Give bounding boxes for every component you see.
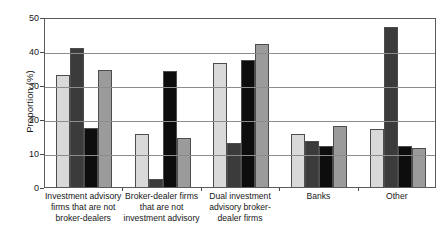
y-tick-mark bbox=[40, 188, 44, 189]
bar bbox=[213, 63, 227, 187]
bar-group bbox=[280, 19, 358, 187]
bar bbox=[227, 143, 241, 187]
bar bbox=[305, 141, 319, 187]
gridline bbox=[45, 53, 435, 54]
gridline bbox=[45, 87, 435, 88]
bar bbox=[177, 138, 191, 187]
bar bbox=[255, 44, 269, 187]
bar bbox=[398, 146, 412, 187]
bar bbox=[84, 128, 98, 188]
bar-group bbox=[202, 19, 280, 187]
bar bbox=[241, 60, 255, 188]
y-tick-label: 30 bbox=[29, 81, 39, 91]
bar bbox=[135, 134, 149, 187]
bar bbox=[384, 27, 398, 187]
bar bbox=[370, 129, 384, 187]
gridline bbox=[45, 155, 435, 156]
bar-chart: Proportion (%) 01020304050 Investment ad… bbox=[0, 0, 445, 244]
bar bbox=[291, 134, 305, 187]
bars-layer bbox=[45, 19, 435, 187]
bar bbox=[333, 126, 347, 187]
bar-group bbox=[45, 19, 123, 187]
bar-group bbox=[123, 19, 201, 187]
y-tick-label: 50 bbox=[29, 13, 39, 23]
x-axis-label-line: advisory broker- bbox=[194, 202, 286, 213]
y-tick-label: 40 bbox=[29, 47, 39, 57]
bar-group bbox=[359, 19, 437, 187]
bar bbox=[319, 146, 333, 187]
bar bbox=[56, 75, 70, 187]
bar bbox=[149, 179, 163, 188]
x-axis-label-line: dealer firms bbox=[194, 213, 286, 224]
x-axis-labels: Investment advisoryfirms that are notbro… bbox=[44, 191, 436, 243]
y-tick-label: 20 bbox=[29, 115, 39, 125]
x-axis-category-label: Other bbox=[351, 191, 443, 202]
bar bbox=[163, 71, 177, 187]
x-axis-label-line: Other bbox=[351, 191, 443, 202]
bar bbox=[70, 48, 84, 187]
gridline bbox=[45, 121, 435, 122]
plot-area bbox=[44, 18, 436, 188]
y-tick-label: 10 bbox=[29, 149, 39, 159]
